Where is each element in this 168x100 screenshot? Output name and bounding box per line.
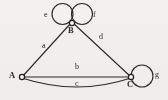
vertex-node-a[interactable] <box>19 74 24 79</box>
vertex-label-c: C <box>127 80 133 89</box>
loop-label-f: f <box>93 11 96 19</box>
loop-label-g: g <box>155 71 159 79</box>
loop-label-e: e <box>44 11 48 19</box>
graph-svg <box>0 0 168 100</box>
edge-label-c: c <box>75 80 79 88</box>
diagram-canvas: A B C a b c d e f g <box>0 0 168 100</box>
edge-label-a: a <box>42 42 46 50</box>
loop-edge-g <box>131 65 153 87</box>
vertex-label-b: B <box>68 26 74 35</box>
vertex-label-a: A <box>9 71 15 80</box>
edge-a-line <box>22 23 71 77</box>
edge-label-d: d <box>99 33 103 41</box>
edge-label-b: b <box>75 63 79 71</box>
